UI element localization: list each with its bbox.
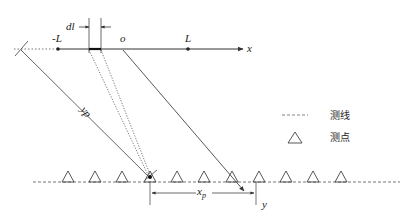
dl-rays	[89, 50, 151, 177]
pos-L-point	[186, 47, 190, 51]
survey-stations	[62, 171, 347, 182]
legend-survey-line-label: 测线	[330, 109, 350, 121]
observation-point	[148, 175, 152, 179]
origin-label: o	[120, 32, 126, 44]
y-axis: y	[123, 50, 267, 210]
x-axis: x -L o L	[14, 32, 252, 54]
dl-element: dl	[66, 18, 111, 53]
xp-dimension: xp	[150, 182, 256, 205]
neg-L-label: -L	[52, 32, 62, 44]
station-triangle	[198, 171, 210, 182]
legend: 测线 测点	[282, 109, 350, 143]
station-triangle	[253, 171, 265, 182]
station-triangle	[307, 171, 319, 182]
yp-label: yp	[78, 103, 95, 120]
legend-triangle-symbol	[288, 132, 302, 143]
station-triangle	[335, 171, 347, 182]
diagram-canvas: x -L o L dl yp y	[0, 0, 404, 222]
neg-L-point	[56, 47, 60, 51]
pos-L-label: L	[184, 32, 191, 44]
station-triangle	[62, 171, 74, 182]
yp-line: yp	[15, 41, 157, 180]
station-triangle	[89, 171, 101, 182]
station-triangle	[280, 171, 292, 182]
station-triangle	[116, 171, 128, 182]
station-triangle	[171, 171, 183, 182]
x-axis-label: x	[246, 42, 252, 54]
y-axis-label: y	[261, 198, 267, 210]
dl-label: dl	[66, 20, 75, 32]
legend-survey-point-label: 测点	[330, 131, 350, 143]
